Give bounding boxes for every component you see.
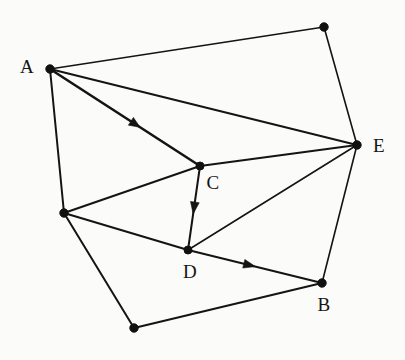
graph-edge-g-e: [324, 27, 357, 145]
graph-edge-a-g: [50, 27, 324, 69]
graph-node-g[interactable]: [320, 23, 328, 31]
graph-node-d[interactable]: [184, 246, 192, 254]
node-label-e: E: [373, 136, 385, 155]
arrowhead-icon-d-b: [243, 259, 256, 268]
node-label-a: A: [20, 57, 34, 76]
graph-edge-f-c: [64, 166, 200, 213]
node-label-c: C: [207, 173, 220, 192]
graph-edge-a-f: [50, 69, 64, 213]
node-label-d: D: [183, 262, 197, 281]
graph-canvas: [0, 0, 405, 360]
graph-edge-c-e: [200, 145, 357, 166]
graph-edge-e-b: [322, 145, 357, 283]
graph-figure: AECDB: [0, 0, 405, 360]
node-label-b: B: [318, 295, 331, 314]
graph-edge-a-c: [50, 69, 200, 166]
graph-node-f[interactable]: [60, 209, 68, 217]
graph-edge-a-e: [50, 69, 357, 145]
graph-node-e[interactable]: [353, 141, 361, 149]
edges-layer: [50, 27, 357, 328]
graph-node-a[interactable]: [46, 65, 54, 73]
arrowheads-layer: [128, 117, 255, 268]
arrowhead-icon-a-c: [128, 117, 140, 127]
graph-node-c[interactable]: [196, 162, 204, 170]
graph-node-b[interactable]: [318, 279, 326, 287]
arrowhead-icon-c-d: [190, 201, 199, 214]
graph-node-h[interactable]: [130, 324, 138, 332]
graph-edge-d-e: [188, 145, 357, 250]
graph-edge-b-h: [134, 283, 322, 328]
